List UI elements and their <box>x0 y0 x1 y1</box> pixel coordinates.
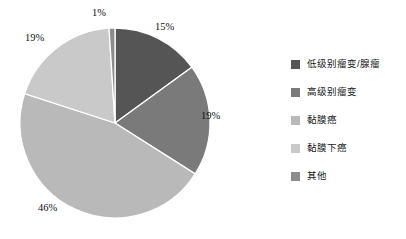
pie-chart-figure: 1% 15% 19% 46% 19% 低级别瘤变/腺瘤高级别瘤变黏膜癌黏膜下癌其… <box>0 0 406 239</box>
legend-item-label: 低级别瘤变/腺瘤 <box>307 59 380 69</box>
legend-item[interactable]: 高级别瘤变 <box>291 78 403 106</box>
slice-label-submucosal-carcinoma: 19% <box>25 33 44 44</box>
slice-label-mucosal-carcinoma: 46% <box>38 203 57 214</box>
chart-legend: 低级别瘤变/腺瘤高级别瘤变黏膜癌黏膜下癌其他 <box>291 50 403 190</box>
slice-label-high-grade: 19% <box>201 111 220 122</box>
legend-color-swatch <box>291 116 300 125</box>
legend-color-swatch <box>291 144 300 153</box>
legend-item[interactable]: 其他 <box>291 162 403 190</box>
slice-label-low-grade: 15% <box>155 22 174 33</box>
legend-color-swatch <box>291 88 300 97</box>
slice-label-other: 1% <box>92 8 106 19</box>
legend-color-swatch <box>291 60 300 69</box>
legend-item[interactable]: 黏膜下癌 <box>291 134 403 162</box>
legend-item-label: 黏膜下癌 <box>307 143 347 153</box>
legend-color-swatch <box>291 172 300 181</box>
pie-slice-group <box>20 28 210 218</box>
legend-item[interactable]: 低级别瘤变/腺瘤 <box>291 50 403 78</box>
legend-item-label: 高级别瘤变 <box>307 87 357 97</box>
legend-item-label: 黏膜癌 <box>307 115 337 125</box>
pie-chart-area: 1% 15% 19% 46% 19% <box>0 0 240 239</box>
legend-item-label: 其他 <box>307 171 327 181</box>
legend-item[interactable]: 黏膜癌 <box>291 106 403 134</box>
